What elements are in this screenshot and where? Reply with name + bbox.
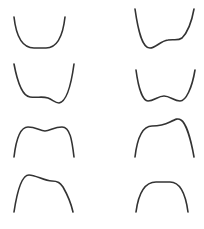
curve-double-well-right-min <box>14 64 74 103</box>
curve-symmetric-double-well <box>136 70 195 101</box>
curve-double-well-left-min <box>135 9 194 48</box>
curve-grid <box>0 0 204 229</box>
curve-n-flat-top <box>136 182 188 212</box>
curve-u-flat-bottom <box>14 17 65 48</box>
curve-hump-right-max <box>135 119 194 157</box>
curve-hump-left-max <box>14 175 73 212</box>
curve-symmetric-double-hump <box>14 127 74 157</box>
